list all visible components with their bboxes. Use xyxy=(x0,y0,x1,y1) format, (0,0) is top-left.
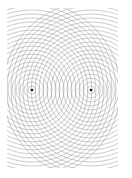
wave-ring xyxy=(0,46,76,134)
source-right-dot xyxy=(90,89,93,92)
source-right-rings xyxy=(3,2,132,178)
interference-diagram xyxy=(0,0,132,178)
wave-ring xyxy=(39,38,132,142)
wave-ring xyxy=(43,42,132,138)
wave-ring xyxy=(0,38,84,142)
wave-ring xyxy=(3,2,132,178)
source-left-dot xyxy=(31,89,34,92)
wave-ring xyxy=(0,54,68,126)
wave-ring xyxy=(31,30,132,150)
source-left-rings xyxy=(0,2,120,178)
wave-rings xyxy=(0,2,132,178)
